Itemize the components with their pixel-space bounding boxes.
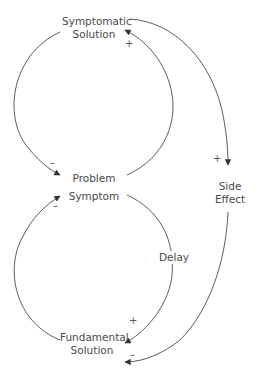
node-side-effect: Side Effect	[210, 180, 250, 206]
node-label-line: Fundamental	[60, 331, 124, 344]
polarity-symptomatic-to-side-effect: +	[213, 154, 221, 164]
node-label-line: Problem	[68, 169, 120, 187]
edge-symptomatic-to-side-effect	[130, 19, 228, 165]
polarity-problem-to-symptomatic: +	[125, 39, 133, 49]
node-label-line: Effect	[210, 193, 250, 206]
node-label-line: Solution	[62, 28, 126, 41]
node-label-line: Symptomatic	[62, 15, 126, 28]
edge-symptomatic-to-problem	[14, 32, 60, 175]
edge-fundamental-to-problem	[14, 196, 60, 340]
node-label-line: Symptom	[68, 187, 120, 205]
node-label-line: Solution	[60, 344, 124, 357]
polarity-symptomatic-to-problem: –	[50, 158, 55, 168]
edge-problem-to-symptomatic	[125, 30, 173, 175]
delay-label: Delay	[158, 251, 190, 264]
polarity-problem-to-fundamental: +	[129, 316, 137, 326]
causal-loop-diagram: Symptomatic Solution Problem Symptom Sid…	[0, 0, 258, 381]
edge-side-effect-to-fundamental	[125, 212, 228, 362]
node-problem-symptom: Problem Symptom	[68, 169, 120, 205]
polarity-fundamental-to-problem: –	[53, 201, 58, 211]
node-label-line: Side	[210, 180, 250, 193]
delay-text: Delay	[159, 251, 189, 263]
node-fundamental-solution: Fundamental Solution	[60, 331, 124, 357]
node-symptomatic-solution: Symptomatic Solution	[62, 15, 126, 41]
polarity-side-effect-to-fundamental: –	[130, 350, 135, 360]
